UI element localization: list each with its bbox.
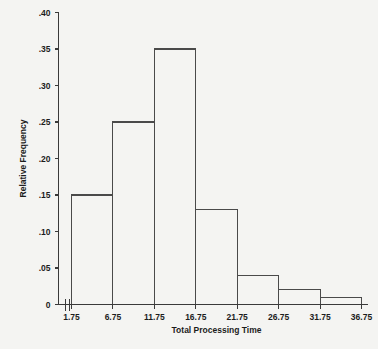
y-tick-label: .10 xyxy=(39,227,51,237)
y-tick-label: .15 xyxy=(39,190,51,200)
histogram-bar xyxy=(72,195,113,305)
histogram-bar xyxy=(320,297,361,304)
y-tick-label: .05 xyxy=(39,263,51,273)
x-tick-label: 1.75 xyxy=(63,312,80,322)
x-tick-label: 11.75 xyxy=(144,312,165,322)
x-tick-label: 16.75 xyxy=(185,312,207,322)
y-tick-label: 0 xyxy=(46,300,51,310)
y-tick-label: .40 xyxy=(39,8,51,18)
histogram-bars xyxy=(72,49,362,305)
histogram-bar xyxy=(237,275,278,304)
x-tick-label: 21.75 xyxy=(227,312,249,322)
x-axis-ticks: 1.756.7511.7516.7521.7526.7531.7536.75 xyxy=(63,305,372,322)
histogram-bar xyxy=(196,210,237,305)
y-tick-label: .25 xyxy=(39,117,51,127)
x-axis-title: Total Processing Time xyxy=(172,325,262,335)
x-tick-label: 36.75 xyxy=(351,312,373,322)
histogram-bar xyxy=(279,290,320,305)
y-axis-ticks: 0.05.10.15.20.25.30.35.40 xyxy=(39,8,59,310)
y-tick-label: .20 xyxy=(39,154,51,164)
x-tick-label: 6.75 xyxy=(105,312,122,322)
plot-area: 0.05.10.15.20.25.30.35.40 1.756.7511.751… xyxy=(0,0,378,349)
x-tick-label: 31.75 xyxy=(309,312,331,322)
y-axis-title: Relative Frequency xyxy=(18,119,28,197)
histogram-bar xyxy=(113,122,154,305)
x-tick-label: 26.75 xyxy=(268,312,290,322)
y-tick-label: .30 xyxy=(39,81,51,91)
histogram-bar xyxy=(154,49,195,305)
histogram-chart: 0.05.10.15.20.25.30.35.40 1.756.7511.751… xyxy=(0,0,378,349)
y-tick-label: .35 xyxy=(39,44,51,54)
